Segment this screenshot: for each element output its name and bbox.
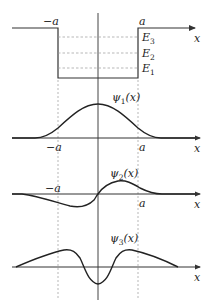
- potential-well-panel: −a a x E3 E2 E1: [12, 15, 201, 78]
- label-a: a: [139, 15, 146, 28]
- psi3-axis-label-x: x: [194, 271, 201, 284]
- psi2-label-a: a: [139, 197, 146, 210]
- psi1-label: ψ1(x): [112, 91, 140, 106]
- axis-label-x: x: [194, 32, 201, 45]
- psi2-panel: ψ2(x) −a a x: [12, 167, 201, 211]
- psi3-label: ψ3(x): [110, 232, 138, 247]
- psi2-label-minus-a: −a: [45, 182, 61, 195]
- psi3-panel: ψ3(x) x: [12, 232, 201, 284]
- psi1-panel: ψ1(x) −a a x: [12, 91, 201, 155]
- label-e3: E3: [141, 31, 155, 46]
- psi1-axis-label-x: x: [194, 142, 201, 155]
- psi1-curve: [12, 104, 195, 138]
- psi1-label-minus-a: −a: [46, 141, 62, 154]
- finite-square-well-diagram: −a a x E3 E2 E1 ψ1(x) −a a x ψ2(x) −a a …: [0, 0, 213, 300]
- psi2-label: ψ2(x): [110, 167, 138, 182]
- psi1-label-a: a: [139, 141, 146, 154]
- label-e2: E2: [141, 47, 155, 62]
- label-minus-a: −a: [43, 15, 59, 28]
- psi2-axis-label-x: x: [194, 198, 201, 211]
- label-e1: E1: [141, 62, 155, 77]
